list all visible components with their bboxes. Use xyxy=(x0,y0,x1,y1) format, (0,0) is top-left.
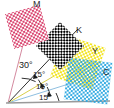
angle-label-15-mid: 15° xyxy=(36,83,48,91)
cmyk-screen-angle-diagram: 30° 15° 15° 15° M K Y C xyxy=(0,0,114,108)
halftone-patch-cyan xyxy=(64,57,113,104)
channel-label-magenta: M xyxy=(33,0,41,9)
angle-label-15-bottom: 15° xyxy=(39,94,51,102)
channel-label-cyan: C xyxy=(103,68,110,77)
angle-arc-15c xyxy=(56,93,59,101)
angle-label-30: 30° xyxy=(19,61,33,70)
channel-label-black: K xyxy=(76,26,82,35)
angle-label-15-top: 15° xyxy=(33,71,45,79)
channel-label-yellow: Y xyxy=(92,47,98,56)
